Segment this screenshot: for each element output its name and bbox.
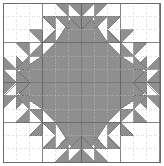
quilt-diagram [0, 0, 164, 166]
quilt-canvas [0, 0, 164, 166]
